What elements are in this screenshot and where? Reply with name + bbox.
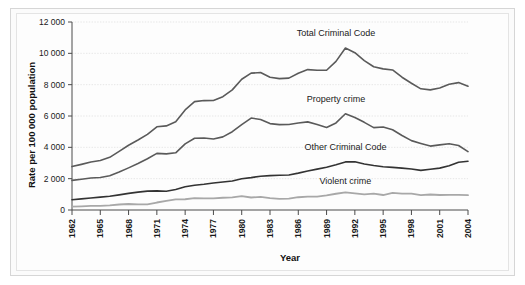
x-tick-label: 1965: [95, 219, 105, 238]
data-line-series-0: [72, 48, 468, 167]
y-axis-title: Rate per 100 000 population: [26, 62, 37, 188]
x-tick-label: 1992: [350, 219, 360, 238]
series-label-3: Violent crime: [319, 176, 371, 186]
y-tick-label: 6 000: [44, 111, 66, 121]
x-tick-label: 1989: [322, 219, 332, 238]
x-tick-label: 1977: [208, 219, 218, 238]
x-tick-label: 1971: [152, 219, 162, 238]
x-tick-label: 1983: [265, 219, 275, 238]
y-tick-label: 10 000: [39, 48, 65, 58]
series-label-2: Other Criminal Code: [304, 142, 386, 152]
chart-figure: 02 0004 0006 0008 00010 00012 000 196219…: [0, 0, 525, 285]
series-annotations-group: Total Criminal CodeProperty crimeOther C…: [297, 28, 387, 186]
data-line-series-3: [72, 192, 468, 206]
y-tick-labels-group: 02 0004 0006 0008 00010 00012 000: [39, 17, 65, 215]
x-tick-labels-group: 1962196519681971197419771980198319861989…: [67, 219, 473, 238]
x-tick-label: 1998: [406, 219, 416, 238]
y-tick-label: 8 000: [44, 80, 66, 90]
series-label-1: Property crime: [307, 94, 366, 104]
x-tick-label: 1968: [124, 219, 134, 238]
x-tick-label: 2004: [463, 219, 473, 238]
x-tick-label: 1962: [67, 219, 77, 238]
line-chart-svg: 02 0004 0006 0008 00010 00012 000 196219…: [0, 0, 525, 285]
y-tick-label: 4 000: [44, 142, 66, 152]
x-tick-label: 1974: [180, 219, 190, 238]
y-tick-label: 12 000: [39, 17, 65, 27]
x-tick-label: 1995: [378, 219, 388, 238]
x-axis-title: Year: [280, 252, 300, 263]
data-lines-group: [72, 48, 468, 207]
series-label-0: Total Criminal Code: [297, 28, 376, 38]
axes-group: [68, 22, 468, 215]
x-tick-label: 1980: [237, 219, 247, 238]
x-tick-label: 1986: [293, 219, 303, 238]
x-tick-label: 2001: [435, 219, 445, 238]
y-tick-label: 2 000: [44, 174, 66, 184]
gridlines-group: [72, 22, 468, 179]
y-tick-label: 0: [60, 205, 65, 215]
